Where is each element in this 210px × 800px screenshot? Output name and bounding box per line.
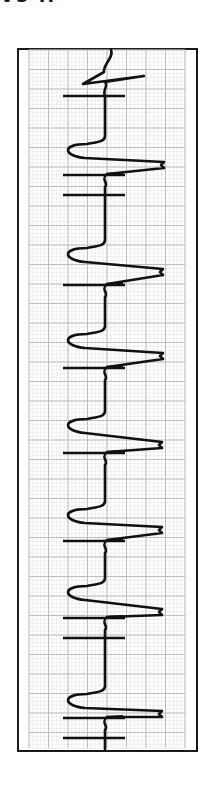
- ecg-strip-chart: [0, 0, 210, 800]
- ecg-grid: [29, 50, 185, 748]
